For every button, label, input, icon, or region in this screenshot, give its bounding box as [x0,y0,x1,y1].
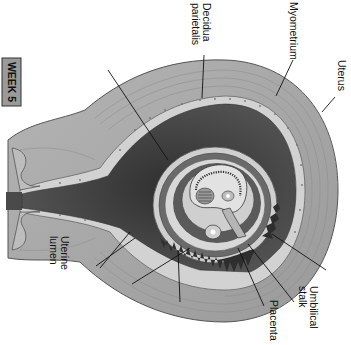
label-decidua-parietalis-2: parietalis [190,3,202,45]
label-placenta: Placenta [268,300,280,341]
label-uterus: Uterus [336,60,348,91]
label-uterine-lumen-2: lumen [48,236,60,265]
label-umbilical-stalk-2: stalk [297,286,309,308]
week-badge-label: WEEK 5 [6,62,18,102]
label-myometrium: Myometrium [288,2,300,60]
week-badge: WEEK 5 [2,58,21,106]
cervical-canal [6,192,22,210]
week5-uterus-diagram: WEEK 5 Decidua parietalis Myometrium Ute… [0,0,351,345]
